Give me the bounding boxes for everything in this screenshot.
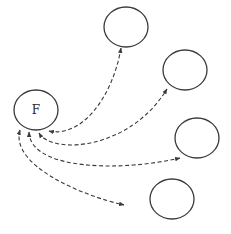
edges — [19, 48, 180, 205]
edge-f-to-n1 — [49, 48, 121, 132]
outer-nodes — [104, 7, 219, 219]
node-2-circle — [163, 50, 207, 90]
node-4-circle — [150, 179, 194, 219]
edge-f-to-n4 — [19, 130, 124, 205]
node-3-circle — [175, 118, 219, 158]
hub-node-f: F — [14, 90, 58, 130]
edge-f-to-n3 — [29, 132, 180, 166]
node-1-circle — [104, 7, 148, 47]
diagram-canvas: F — [0, 0, 231, 234]
hub-label: F — [32, 103, 40, 117]
